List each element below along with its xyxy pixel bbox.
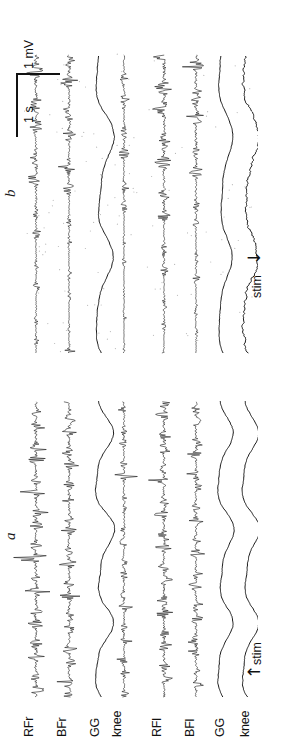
figure-rotated-content: RFr BFr GG knee RFl BFl GG knee a b 1 s … xyxy=(0,0,298,745)
stim-arrow-panel-a: ↑ xyxy=(246,665,263,679)
channel-label-bfl: BFl xyxy=(183,719,197,737)
channel-label-kneer: knee xyxy=(110,711,124,737)
time-scalebar xyxy=(16,75,18,137)
channel-label-rfl: RFl xyxy=(150,718,164,737)
stim-label-panel-a: stim xyxy=(250,642,264,665)
channel-label-bfr: BFr xyxy=(55,717,69,737)
channel-label-ggl: GG xyxy=(213,718,227,737)
trace-plot-area xyxy=(8,11,258,701)
channel-label-ggr: GG xyxy=(88,718,102,737)
channel-label-kneel: knee xyxy=(238,711,252,737)
stim-label-panel-b: stim xyxy=(250,275,264,298)
stim-arrow-panel-b: ↓ xyxy=(246,251,263,265)
time-scalebar-label: 1 s xyxy=(22,106,36,123)
amplitude-scalebar-label: 1 mV xyxy=(22,40,36,69)
amplitude-scalebar xyxy=(16,73,60,75)
channel-label-rfr: RFr xyxy=(22,717,36,737)
figure-canvas: RFr BFr GG knee RFl BFl GG knee a b 1 s … xyxy=(0,0,298,745)
